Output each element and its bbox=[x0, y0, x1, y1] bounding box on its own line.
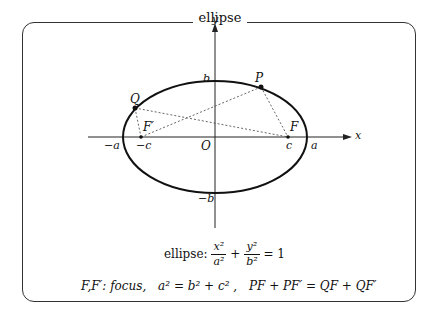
distance-sum-text: PF + PF′ = QF + QF′ bbox=[249, 279, 377, 293]
focal-lines bbox=[135, 87, 288, 137]
tick-b: b bbox=[203, 73, 210, 85]
fraction-y: y²b² bbox=[244, 240, 259, 269]
tick-a: a bbox=[311, 140, 318, 152]
focus-text: F,F′: focus, bbox=[81, 279, 146, 293]
den-a: a² bbox=[211, 255, 226, 269]
tick-neg-c: −c bbox=[136, 140, 151, 152]
point-p bbox=[259, 85, 264, 90]
equation-rhs: = 1 bbox=[263, 247, 285, 261]
tick-c: c bbox=[286, 140, 292, 152]
origin-label: O bbox=[201, 140, 211, 152]
relation-text: a² = b² + c² , bbox=[158, 279, 237, 293]
relations-line: F,F′: focus, a² = b² + c² , PF + PF′ = Q… bbox=[81, 279, 377, 293]
fraction-x: x²a² bbox=[211, 240, 226, 269]
y-axis-label: y bbox=[212, 14, 218, 26]
equation-prefix: ellipse: bbox=[164, 247, 208, 261]
point-q bbox=[133, 106, 138, 111]
equation-line: ellipse: x²a² + y²b² = 1 bbox=[164, 240, 285, 269]
x-axis-label: x bbox=[355, 130, 361, 142]
label-p: P bbox=[255, 72, 263, 84]
num-x: x² bbox=[211, 240, 226, 255]
plus-sign: + bbox=[230, 247, 240, 261]
den-b: b² bbox=[244, 255, 259, 269]
tick-neg-a: −a bbox=[104, 140, 120, 152]
label-f: F bbox=[290, 121, 298, 133]
num-y: y² bbox=[244, 240, 259, 255]
tick-neg-b: −b bbox=[198, 193, 214, 205]
label-f-prime: F′ bbox=[143, 121, 154, 133]
x-axis-arrow-icon bbox=[343, 134, 352, 140]
label-q: Q bbox=[130, 93, 140, 105]
